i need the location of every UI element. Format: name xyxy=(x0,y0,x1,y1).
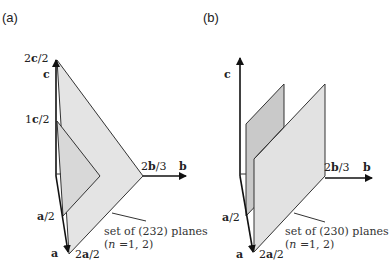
tick-2b-over-3: 2b/3 xyxy=(324,161,349,174)
caption-b-line1: set of (230) planes xyxy=(285,225,389,238)
a-axis-label: a xyxy=(236,248,243,261)
tick-2c-over-2: 2c/2 xyxy=(24,52,48,65)
c-axis-label: c xyxy=(224,68,231,81)
tick-1c-over-2: 1c/2 xyxy=(25,113,49,126)
miller-planes-diagram: (a) 2c/2 c 1c/2 2b/3 b a/2 a 2a/2 xyxy=(0,0,392,276)
b-axis-label: b xyxy=(179,160,187,173)
panel-a-label: (a) xyxy=(2,10,18,25)
panel-b-label: (b) xyxy=(203,10,219,25)
tick-a-over-2: a/2 xyxy=(37,210,55,223)
c-axis-label: c xyxy=(43,68,50,81)
caption-a-line1: set of (232) planes xyxy=(104,225,208,238)
caption-leader-a xyxy=(112,213,146,221)
a-axis-label: a xyxy=(51,247,58,260)
caption-leader-b xyxy=(294,213,325,222)
b-axis-label: b xyxy=(363,161,371,174)
panel-a: (a) 2c/2 c 1c/2 2b/3 b a/2 a 2a/2 xyxy=(2,10,208,261)
panel-b: (b) c 2b/3 b a/2 a 2a/2 set of (230) pla… xyxy=(203,10,389,261)
tick-2a-over-2: 2a/2 xyxy=(75,248,100,261)
caption-b-line2: (n =1, 2) xyxy=(285,238,334,251)
tick-a-over-2: a/2 xyxy=(222,211,240,224)
tick-2b-over-3: 2b/3 xyxy=(141,160,166,173)
caption-a-line2: (n =1, 2) xyxy=(104,238,153,251)
tick-2a-over-2: 2a/2 xyxy=(259,248,284,261)
